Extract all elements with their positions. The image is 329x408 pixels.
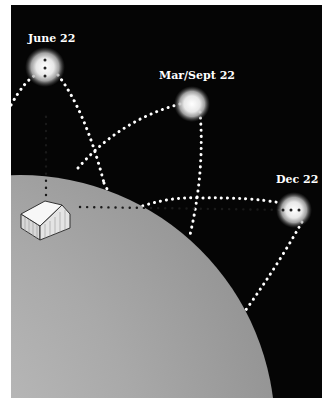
label-mar-sept: Mar/Sept 22: [159, 69, 235, 82]
sun-mar-sept: [174, 86, 210, 122]
sun-path-june: [11, 75, 104, 183]
diagram-panel: June 22 Mar/Sept 22 Dec 22: [11, 5, 322, 398]
label-december: Dec 22: [276, 173, 318, 186]
sun-december: [276, 192, 312, 228]
sun-june: [25, 47, 65, 87]
diagram-canvas: [11, 5, 322, 398]
label-june: June 22: [28, 32, 75, 45]
